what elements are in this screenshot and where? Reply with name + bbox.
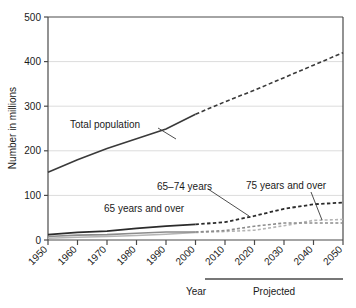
- annotation-total-population: Total population: [70, 119, 140, 130]
- y-axis-title: Number in millions: [7, 87, 18, 169]
- x-tick-label-1960: 1960: [55, 243, 79, 267]
- series-line-65-years-and-over-projected: [196, 203, 344, 225]
- y-tick-label-500: 500: [24, 12, 41, 23]
- y-tick-label-100: 100: [24, 190, 41, 201]
- x-axis-ticks: [48, 240, 343, 245]
- leader-line-total-population: [158, 128, 176, 139]
- chart-canvas: 500 400 300 200 100 0 Number in millions…: [0, 0, 356, 308]
- x-tick-label-2030: 2030: [262, 243, 286, 267]
- x-axis-title: Year: [186, 286, 207, 297]
- leader-line-75-years-and-over: [311, 192, 322, 220]
- annotation-65-years-and-over: 65 years and over: [104, 203, 185, 214]
- series-group: [48, 53, 343, 239]
- annotation-75-years-and-over: 75 years and over: [246, 180, 327, 191]
- y-tick-label-200: 200: [24, 145, 41, 156]
- x-tick-label-2050: 2050: [321, 243, 345, 267]
- leader-line-65-74-years: [208, 189, 249, 216]
- x-tick-label-2020: 2020: [232, 243, 256, 267]
- y-tick-label-400: 400: [24, 56, 41, 67]
- x-tick-label-1990: 1990: [144, 243, 168, 267]
- series-annotations: Total population 65–74 years 65 years an…: [70, 119, 327, 214]
- x-axis-tick-labels: 1950 1960 1970 1980 1990 2000 2010 2020 …: [26, 243, 345, 267]
- x-tick-label-2010: 2010: [203, 243, 227, 267]
- projected-bracket-label: Projected: [253, 286, 295, 297]
- y-axis-tick-labels: 500 400 300 200 100 0: [24, 12, 41, 246]
- x-tick-label-1950: 1950: [26, 243, 50, 267]
- annotation-65-74-years: 65–74 years: [157, 181, 212, 192]
- y-tick-label-300: 300: [24, 101, 41, 112]
- x-tick-label-2000: 2000: [173, 243, 197, 267]
- population-line-chart: 500 400 300 200 100 0 Number in millions…: [0, 0, 356, 308]
- x-tick-label-1980: 1980: [114, 243, 138, 267]
- x-tick-label-2040: 2040: [291, 243, 315, 267]
- x-tick-label-1970: 1970: [85, 243, 109, 267]
